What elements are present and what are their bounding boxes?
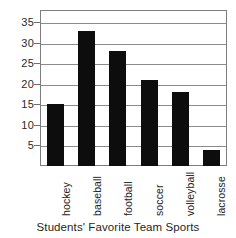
y-tick-label-20: 20 [8, 79, 34, 90]
y-axis-tick-labels: 5101520253035 [8, 0, 34, 238]
x-label-hockey: hockey [61, 182, 72, 216]
x-label-football: football [123, 181, 134, 216]
bar-football [109, 51, 126, 166]
bar-volleyball [172, 92, 189, 166]
bar-hockey [47, 104, 64, 166]
chart-caption: Students' Favorite Team Sports [0, 221, 236, 234]
y-tick-label-35: 35 [8, 17, 34, 28]
bar-baseball [78, 31, 95, 166]
y-tick-label-30: 30 [8, 38, 34, 49]
bar-soccer [141, 80, 158, 166]
x-axis-category-labels: hockeybaseballfootballsoccervolleyballla… [40, 168, 227, 218]
x-label-soccer: soccer [154, 184, 165, 216]
x-label-baseball: baseball [92, 176, 103, 216]
y-tick-label-10: 10 [8, 120, 34, 131]
y-tick-label-5: 5 [8, 140, 34, 151]
bar-chart-figure: 5101520253035 hockeybaseballfootballsocc… [0, 0, 236, 238]
bar-lacrosse [203, 150, 220, 166]
y-tick-label-15: 15 [8, 99, 34, 110]
y-tick-label-25: 25 [8, 58, 34, 69]
x-label-volleyball: volleyball [185, 172, 196, 216]
x-label-lacrosse: lacrosse [216, 176, 227, 216]
bars-layer [40, 10, 227, 166]
